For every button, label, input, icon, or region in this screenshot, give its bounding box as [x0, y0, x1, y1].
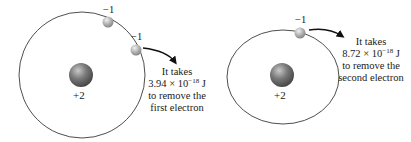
left-annotation-line1: It takes: [143, 66, 211, 78]
left-annotation-line4: first electron: [143, 102, 211, 114]
right-electron-charge: −1: [295, 14, 306, 26]
right-electron: [295, 28, 306, 39]
left-electron-1-charge: −1: [103, 4, 114, 16]
left-electron-2-charge: −1: [131, 31, 142, 43]
left-annotation-line3: to remove the: [143, 90, 211, 102]
left-annotation: It takes 3.94 × 10−18 J to remove the fi…: [143, 66, 211, 114]
right-annotation-line3: to remove the: [332, 60, 410, 72]
right-removal-arrow: [309, 29, 342, 36]
left-electron-1: [103, 17, 114, 28]
right-nucleus: [270, 63, 294, 87]
right-nucleus-charge: +2: [274, 89, 286, 101]
left-electron-2: [131, 45, 142, 56]
right-annotation-line1: It takes: [332, 36, 410, 48]
right-annotation-line4: second electron: [332, 72, 410, 84]
left-removal-arrow: [143, 48, 175, 62]
left-annotation-value: 3.94 × 10−18 J: [143, 78, 211, 90]
left-nucleus: [69, 63, 93, 87]
right-atom: [227, 28, 342, 125]
right-annotation-value: 8.72 × 10−18 J: [332, 48, 410, 60]
right-annotation: It takes 8.72 × 10−18 J to remove the se…: [332, 36, 410, 84]
left-nucleus-charge: +2: [73, 89, 85, 101]
